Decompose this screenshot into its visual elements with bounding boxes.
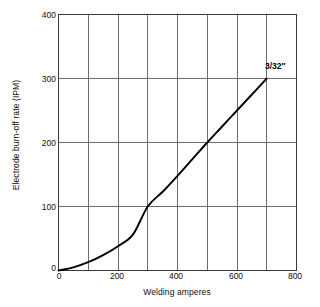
- x-tick-label-600: 600: [218, 271, 254, 281]
- gridlines: [59, 15, 297, 271]
- y-tick-label-300: 300: [26, 74, 56, 84]
- y-tick-label-200: 200: [26, 138, 56, 148]
- series-annotation-electrode-size: 3/32″: [265, 61, 286, 71]
- data-curve-group: [59, 79, 267, 271]
- y-axis-title: Electrode burn-off rate (IPM): [11, 55, 21, 215]
- plot-area: [0, 0, 320, 307]
- y-tick-label-400: 400: [26, 10, 56, 20]
- y-tick-label-100: 100: [26, 202, 56, 212]
- x-tick-label-800: 800: [277, 271, 313, 281]
- data-curve: [59, 79, 267, 271]
- x-tick-label-200: 200: [99, 271, 135, 281]
- x-tick-label-0: 0: [44, 271, 74, 281]
- burn-off-rate-chart: Electrode burn-off rate (IPM) Welding am…: [0, 0, 320, 307]
- x-tick-label-400: 400: [158, 271, 194, 281]
- x-axis-title: Welding amperes: [58, 287, 296, 297]
